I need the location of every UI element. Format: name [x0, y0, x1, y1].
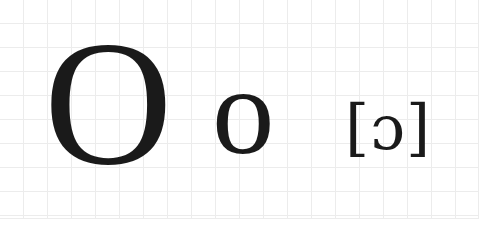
lowercase-letter-o-glyph: o: [212, 49, 275, 174]
ipa-open-o-glyph: [ɔ]: [345, 97, 431, 159]
worksheet-canvas: O o [ɔ]: [0, 0, 502, 233]
uppercase-letter-o-glyph: O: [44, 14, 173, 192]
glyph-row: O o [ɔ]: [0, 0, 502, 233]
